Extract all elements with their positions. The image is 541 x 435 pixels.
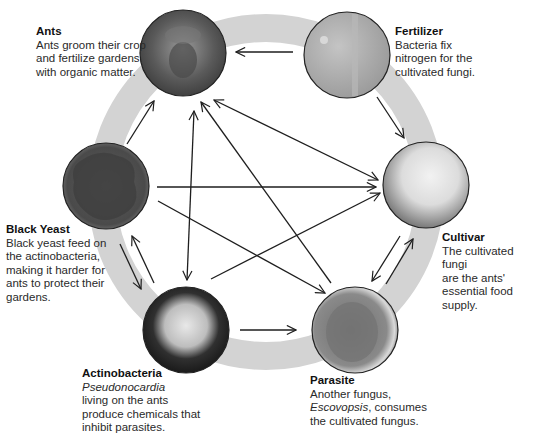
species-name: Pseudonocardia xyxy=(82,381,200,395)
label-title: Fertilizer xyxy=(395,25,475,39)
label-text: the cultivated fungus. xyxy=(310,415,427,429)
fertilizer-spot-icon xyxy=(320,36,328,44)
label-text: the actinobacteria, xyxy=(6,250,106,264)
label-text: are the ants' xyxy=(442,272,541,286)
arrow-parasite-to-ants xyxy=(201,102,331,283)
arrow-ants-actinobacteria xyxy=(187,111,194,280)
label-text: Another fungus, xyxy=(310,388,427,402)
actinobacteria-photo xyxy=(143,287,229,373)
node-fertilizer xyxy=(304,12,390,98)
label-text: essential food supply. xyxy=(442,285,541,312)
label-title: Actinobacteria xyxy=(82,367,200,381)
label-ants: Ants Ants groom their crop and fertilize… xyxy=(36,25,146,79)
ring-arrows xyxy=(120,52,413,330)
node-parasite xyxy=(312,287,398,373)
label-text: inhibit parasites. xyxy=(82,421,200,435)
label-text: Ants groom their crop xyxy=(36,39,146,53)
fertilizer-photo xyxy=(304,12,390,98)
label-black-yeast: Black Yeast Black yeast feed on the acti… xyxy=(6,223,106,304)
label-cultivar: Cultivar The cultivated fungi are the an… xyxy=(442,231,541,312)
label-text: Escovopsis, consumes xyxy=(310,401,427,415)
label-text: cultivated fungi. xyxy=(395,66,475,80)
arrow-blackyeast-to-parasite xyxy=(158,201,325,293)
fertilizer-texture-icon xyxy=(352,14,358,96)
label-text: living on the ants xyxy=(82,394,200,408)
label-text: The cultivated fungi xyxy=(442,245,541,272)
label-text: Black yeast feed on xyxy=(6,237,106,251)
node-cultivar xyxy=(383,142,469,228)
arrow-actinobacteria-to-cultivar xyxy=(211,193,380,279)
label-fertilizer: Fertilizer Bacteria fix nitrogen for the… xyxy=(395,25,475,79)
label-title: Black Yeast xyxy=(6,223,106,237)
label-actinobacteria: Actinobacteria Pseudonocardia living on … xyxy=(82,367,200,435)
label-title: Parasite xyxy=(310,374,427,388)
label-text: making it harder for xyxy=(6,264,106,278)
ants-detail-icon xyxy=(165,26,201,44)
label-parasite: Parasite Another fungus, Escovopsis, con… xyxy=(310,374,427,428)
node-ants xyxy=(140,10,226,96)
label-text: nitrogen for the xyxy=(395,52,475,66)
cultivar-photo xyxy=(383,142,469,228)
label-text: gardens. xyxy=(6,291,106,305)
inner-arrows xyxy=(157,100,380,293)
label-text: produce chemicals that xyxy=(82,408,200,422)
node-actinobacteria xyxy=(143,287,229,373)
label-text: Bacteria fix xyxy=(395,39,475,53)
species-name: Escovopsis xyxy=(310,401,368,413)
label-text: with organic matter. xyxy=(36,66,146,80)
label-text: and fertilize gardens xyxy=(36,52,146,66)
label-title: Ants xyxy=(36,25,146,39)
ants-detail-icon xyxy=(169,42,197,78)
label-text: , consumes xyxy=(368,401,427,413)
label-text: ants to protect their xyxy=(6,277,106,291)
parasite-core-icon xyxy=(326,302,378,362)
node-black-yeast xyxy=(63,143,149,229)
arrow-ants-cultivar xyxy=(214,100,378,180)
label-title: Cultivar xyxy=(442,231,541,245)
